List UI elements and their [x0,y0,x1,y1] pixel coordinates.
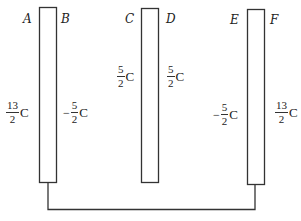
charge-e-unit: C [229,108,238,121]
charge-c: 5 2 C [116,64,134,89]
label-d: D [166,13,176,25]
label-f: F [270,14,278,26]
charge-f-unit: C [289,106,298,119]
charge-b-fraction: 5 2 [71,100,79,125]
charge-b-numerator: 5 [71,100,79,113]
charge-b: − 5 2 C [63,100,88,125]
charge-f-numerator: 13 [275,100,288,113]
charge-e-numerator: 5 [221,102,229,115]
charge-a-fraction: 13 2 [6,100,19,125]
charge-d-unit: C [176,70,185,83]
plates-and-wire-drawing [0,0,301,221]
charge-d: 5 2 C [166,64,184,89]
charge-c-unit: C [126,70,135,83]
charge-a: 13 2 C [5,100,29,125]
charge-c-fraction: 5 2 [117,64,125,89]
charge-a-numerator: 13 [6,100,19,113]
charge-b-denominator: 2 [72,113,78,125]
capacitor-plates-diagram: A B C D E F 13 2 C − 5 2 C 5 2 C 5 2 [0,0,301,221]
charge-d-fraction: 5 2 [167,64,175,89]
charge-e-denominator: 2 [222,115,228,127]
connecting-wire [48,183,255,210]
charge-f: 13 2 C [274,100,298,125]
label-a: A [23,13,32,25]
charge-d-numerator: 5 [167,64,175,77]
label-c: C [125,13,134,25]
charge-e-sign: − [213,109,220,121]
charge-a-unit: C [20,106,29,119]
charge-a-denominator: 2 [10,113,16,125]
label-b: B [61,13,70,25]
charge-b-unit: C [79,106,88,119]
label-e: E [230,14,239,26]
plate-cd [142,9,159,183]
charge-e-fraction: 5 2 [221,102,229,127]
charge-b-sign: − [63,107,70,119]
charge-d-denominator: 2 [168,77,174,89]
charge-f-denominator: 2 [279,113,285,125]
plate-ab [40,8,57,183]
charge-c-numerator: 5 [117,64,125,77]
charge-e: − 5 2 C [213,102,238,127]
charge-c-denominator: 2 [118,77,124,89]
charge-f-fraction: 13 2 [275,100,288,125]
plate-ef [248,10,265,185]
